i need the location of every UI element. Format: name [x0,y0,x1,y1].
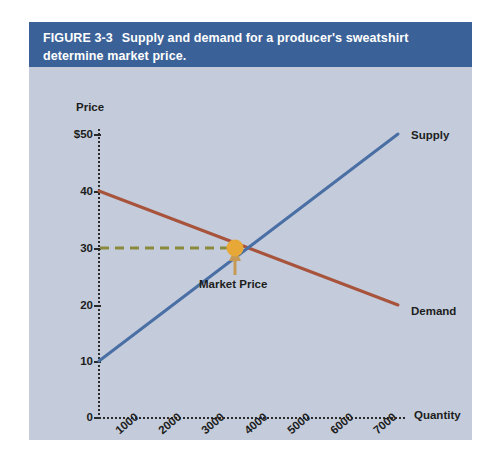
equilibrium-point-marker [227,240,244,257]
series-label-supply: Supply [411,129,449,141]
chart-canvas [29,67,472,440]
figure-number: FIGURE 3-3 [43,31,113,45]
series-label-demand: Demand [411,305,456,317]
annotation-label-market-price: Market Price [199,278,267,290]
chart-plot: Price Quantity $50 40 30 20 10 0 1000 20… [29,67,472,440]
figure-panel: FIGURE 3-3Supply and demand for a produc… [29,22,472,440]
supply-line [99,134,398,361]
figure-header: FIGURE 3-3Supply and demand for a produc… [29,22,472,67]
